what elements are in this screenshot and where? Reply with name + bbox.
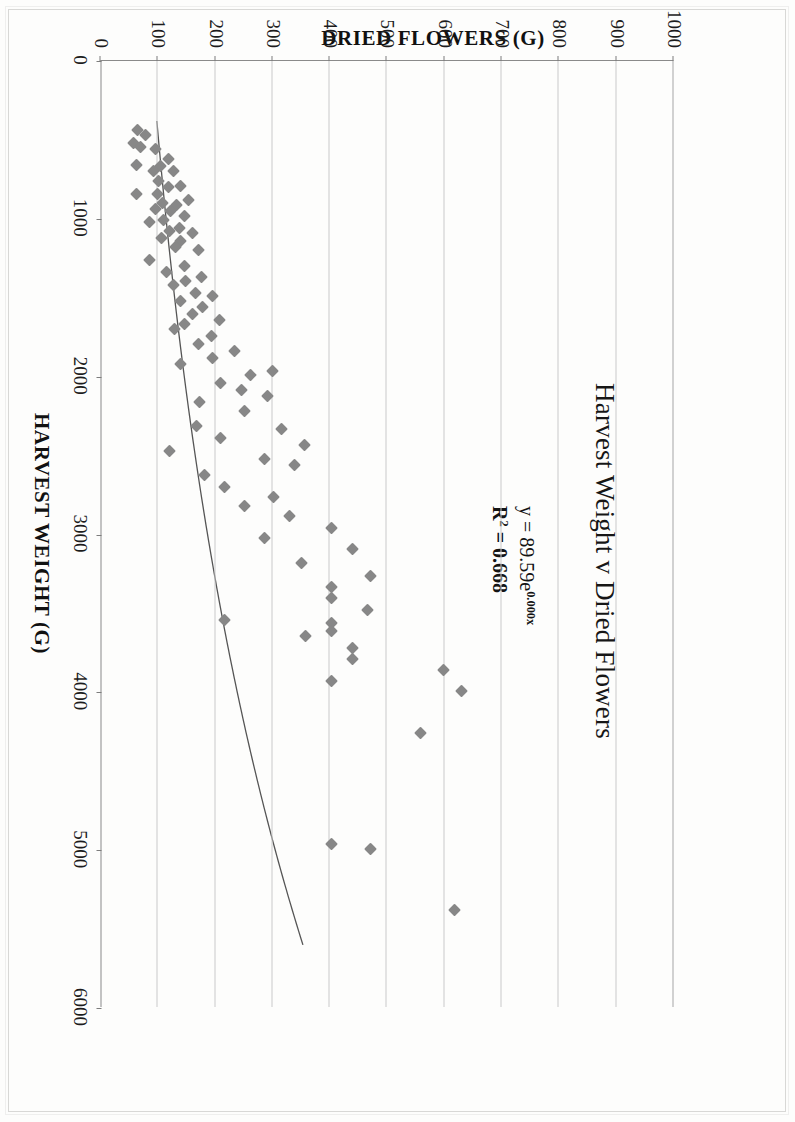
chart-rotation-container: Harvest Weight v Dried Flowers y = 89.59… <box>0 0 795 1122</box>
y-tick-mark <box>386 56 387 61</box>
x-tick-mark <box>96 850 101 851</box>
y-tick-label: 700 <box>490 0 512 48</box>
x-tick-mark <box>96 535 101 536</box>
gridline-horizontal <box>672 61 673 1007</box>
x-tick-mark <box>96 692 101 693</box>
y-tick-mark <box>557 56 558 61</box>
gridline-horizontal <box>214 61 215 1007</box>
y-tick-label: 100 <box>146 0 168 48</box>
x-tick-label: 2000 <box>68 357 90 395</box>
y-tick-mark <box>156 56 157 61</box>
y-tick-label: 400 <box>318 0 340 48</box>
x-axis-title: HARVEST WEIGHT (G) <box>28 60 53 1007</box>
gridline-horizontal <box>443 61 444 1007</box>
scanned-page: Harvest Weight v Dried Flowers y = 89.59… <box>0 0 795 1122</box>
y-tick-label: 1000 <box>662 0 684 48</box>
gridline-horizontal <box>557 61 558 1007</box>
x-tick-mark <box>96 219 101 220</box>
y-tick-mark <box>443 56 444 61</box>
x-tick-label: 0 <box>68 55 90 65</box>
y-tick-mark <box>214 56 215 61</box>
y-tick-label: 900 <box>605 0 627 48</box>
y-tick-mark <box>672 56 673 61</box>
y-tick-label: 0 <box>89 0 111 48</box>
gridline-horizontal <box>271 61 272 1007</box>
x-tick-mark <box>96 61 101 62</box>
y-tick-label: 500 <box>376 0 398 48</box>
y-tick-mark <box>99 56 100 61</box>
gridline-horizontal <box>328 61 329 1007</box>
x-tick-mark <box>96 377 101 378</box>
y-tick-label: 300 <box>261 0 283 48</box>
y-tick-mark <box>500 56 501 61</box>
y-tick-mark <box>615 56 616 61</box>
plot-area <box>100 60 673 1007</box>
y-tick-label: 800 <box>547 0 569 48</box>
rotated-chart-wrapper: Harvest Weight v Dried Flowers y = 89.59… <box>0 0 795 1122</box>
gridline-horizontal <box>386 61 387 1007</box>
y-tick-label: 200 <box>204 0 226 48</box>
y-tick-mark <box>271 56 272 61</box>
y-tick-label: 600 <box>433 0 455 48</box>
gridline-horizontal <box>615 61 616 1007</box>
y-tick-mark <box>328 56 329 61</box>
x-tick-label: 6000 <box>68 988 90 1026</box>
gridline-horizontal <box>500 61 501 1007</box>
x-tick-label: 3000 <box>68 515 90 553</box>
x-tick-label: 5000 <box>68 830 90 868</box>
x-tick-label: 4000 <box>68 672 90 710</box>
x-tick-label: 1000 <box>68 199 90 237</box>
x-tick-mark <box>96 1008 101 1009</box>
scatter-chart: Harvest Weight v Dried Flowers y = 89.59… <box>0 0 795 1122</box>
